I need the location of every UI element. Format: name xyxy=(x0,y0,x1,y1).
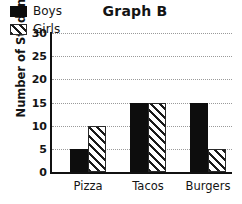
bar-pizza-girls xyxy=(88,126,106,172)
bar-tacos-girls xyxy=(148,103,166,173)
y-axis-tick-label: 15 xyxy=(32,96,47,109)
bar-pizza-boys xyxy=(70,149,88,172)
gridline xyxy=(52,33,232,34)
legend-label: Girls xyxy=(33,23,60,35)
y-axis-tick-label: 25 xyxy=(32,50,47,63)
y-axis-tick-label: 20 xyxy=(32,73,47,86)
legend-swatch-girls-icon xyxy=(10,24,27,35)
y-axis-tick-label: 0 xyxy=(39,166,47,179)
gridline xyxy=(52,56,232,57)
legend-swatch-boys-icon xyxy=(10,6,27,17)
x-axis-line xyxy=(50,172,232,174)
bar-burgers-girls xyxy=(208,149,226,172)
x-axis-tick-label: Burgers xyxy=(186,179,231,193)
y-axis-tick-label: 10 xyxy=(32,119,47,132)
plot-area: 051015202530PizzaTacosBurgers xyxy=(52,33,232,172)
legend-item-girls: Girls xyxy=(10,22,62,36)
legend-item-boys: Boys xyxy=(10,4,62,18)
bar-tacos-boys xyxy=(130,103,148,173)
x-axis-tick-label: Tacos xyxy=(132,179,164,193)
bar-burgers-boys xyxy=(190,103,208,173)
y-axis-tick-label: 5 xyxy=(39,142,47,155)
chart-legend: BoysGirls xyxy=(10,4,62,36)
gridline xyxy=(52,79,232,80)
x-axis-tick-label: Pizza xyxy=(74,179,103,193)
bar-chart: Graph B Number of Students 051015202530P… xyxy=(0,0,242,204)
legend-label: Boys xyxy=(33,5,62,17)
